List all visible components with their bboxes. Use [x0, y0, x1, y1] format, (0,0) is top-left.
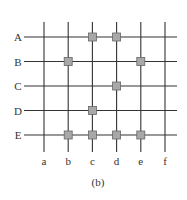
junction-node-icon [88, 131, 96, 139]
junction-node-icon [88, 33, 96, 41]
junction-node-icon [137, 58, 145, 66]
column-label: d [114, 155, 120, 167]
junction-node-icon [88, 107, 96, 115]
row-label: E [15, 129, 22, 141]
column-lines [44, 22, 165, 152]
crossbar-grid-diagram: ABCDE abcdef (b) [0, 0, 187, 200]
junction-node-icon [137, 131, 145, 139]
column-label: c [90, 155, 95, 167]
row-label: B [14, 56, 21, 68]
row-lines [24, 37, 177, 135]
column-label: f [163, 155, 167, 167]
column-labels: abcdef [42, 155, 168, 167]
column-label: e [138, 155, 143, 167]
row-label: D [14, 105, 22, 117]
row-label: C [14, 80, 21, 92]
figure-caption: (b) [92, 176, 105, 189]
junction-node-icon [64, 58, 72, 66]
junction-node-icon [113, 131, 121, 139]
column-label: b [65, 155, 71, 167]
junction-node-icon [113, 82, 121, 90]
column-label: a [42, 155, 47, 167]
junction-node-icon [64, 131, 72, 139]
row-labels: ABCDE [14, 31, 22, 141]
row-label: A [14, 31, 22, 43]
junction-node-icon [113, 33, 121, 41]
